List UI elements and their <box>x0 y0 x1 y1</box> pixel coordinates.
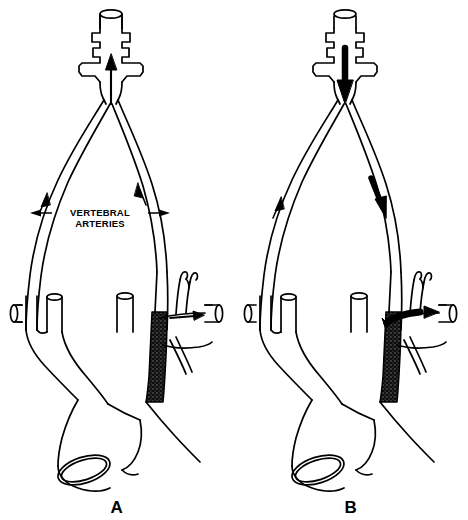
panel-a-letter: A <box>0 499 234 516</box>
panel-a: A VERTEBRAL ARTERIES <box>0 0 234 520</box>
subclavian-stenosis-b <box>380 312 401 402</box>
basilar-flow-arrow-b <box>337 48 353 104</box>
right-vertebral-flow-arrow-b <box>371 178 386 218</box>
subclavian-steal-figure: A VERTEBRAL ARTERIES <box>0 0 468 520</box>
vertebral-arteries-label: VERTEBRAL ARTERIES <box>52 207 148 229</box>
subclavian-stenosis-a <box>146 312 167 402</box>
right-vertebral-flow-arrow-a <box>135 183 147 205</box>
panel-b: B <box>234 0 468 520</box>
basilar-flow-arrow-a <box>106 54 117 104</box>
panel-b-letter: B <box>234 499 468 516</box>
